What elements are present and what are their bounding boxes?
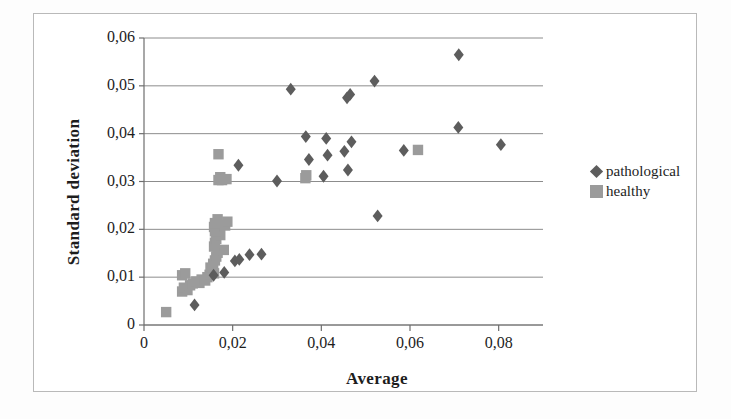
data-point-healthy bbox=[301, 170, 311, 180]
data-point-pathological bbox=[343, 164, 353, 177]
data-point-pathological bbox=[399, 144, 409, 157]
y-tick-label: 0 bbox=[75, 315, 135, 333]
data-point-healthy bbox=[221, 174, 231, 184]
square-marker-icon bbox=[590, 185, 603, 198]
data-point-pathological bbox=[286, 83, 296, 96]
y-tick-label: 0,03 bbox=[75, 172, 135, 190]
legend-label-healthy: healthy bbox=[606, 184, 650, 199]
y-tick-label: 0,06 bbox=[75, 28, 135, 46]
data-point-pathological bbox=[339, 145, 349, 158]
chart-legend: pathological healthy bbox=[590, 161, 680, 201]
data-point-pathological bbox=[190, 299, 200, 312]
legend-label-pathological: pathological bbox=[606, 164, 680, 179]
figure-container: 00,010,020,030,040,050,06 00,020,040,060… bbox=[0, 0, 731, 419]
data-point-healthy bbox=[219, 245, 229, 255]
data-point-pathological bbox=[233, 159, 243, 172]
y-tick-label: 0,01 bbox=[75, 267, 135, 285]
y-tick-label: 0,02 bbox=[75, 219, 135, 237]
diamond-marker-icon bbox=[590, 164, 603, 177]
data-point-pathological bbox=[496, 138, 506, 151]
data-point-pathological bbox=[256, 248, 266, 261]
data-point-pathological bbox=[245, 248, 255, 261]
chart-frame: 00,010,020,030,040,050,06 00,020,040,060… bbox=[33, 13, 697, 392]
data-point-healthy bbox=[213, 149, 223, 159]
x-tick-label: 0,02 bbox=[203, 334, 263, 352]
data-point-healthy bbox=[180, 268, 190, 278]
data-point-healthy bbox=[413, 145, 423, 155]
legend-item-pathological: pathological bbox=[590, 161, 680, 181]
y-tick-label: 0,05 bbox=[75, 76, 135, 94]
series-healthy-points bbox=[161, 145, 423, 318]
x-tick-label: 0,08 bbox=[469, 334, 529, 352]
data-point-pathological bbox=[373, 210, 383, 223]
y-tick-label: 0,04 bbox=[75, 124, 135, 142]
legend-item-healthy: healthy bbox=[590, 181, 680, 201]
x-tick-label: 0,04 bbox=[291, 334, 351, 352]
series-pathological-points bbox=[190, 48, 506, 311]
data-point-pathological bbox=[454, 48, 464, 61]
data-point-pathological bbox=[346, 135, 356, 148]
data-point-healthy bbox=[161, 307, 171, 317]
y-axis-ticks bbox=[139, 38, 144, 325]
x-tick-label: 0 bbox=[114, 334, 174, 352]
data-point-healthy bbox=[222, 216, 232, 226]
data-point-pathological bbox=[319, 170, 329, 183]
data-point-pathological bbox=[323, 149, 333, 162]
x-axis-ticks bbox=[144, 325, 499, 331]
data-point-pathological bbox=[301, 130, 311, 143]
data-point-pathological bbox=[453, 121, 463, 134]
data-point-healthy bbox=[212, 214, 222, 224]
x-tick-label: 0,06 bbox=[380, 334, 440, 352]
data-point-pathological bbox=[304, 153, 314, 166]
data-point-pathological bbox=[272, 175, 282, 188]
y-axis-title: Standard deviation bbox=[64, 92, 84, 292]
x-axis-title: Average bbox=[177, 369, 577, 389]
